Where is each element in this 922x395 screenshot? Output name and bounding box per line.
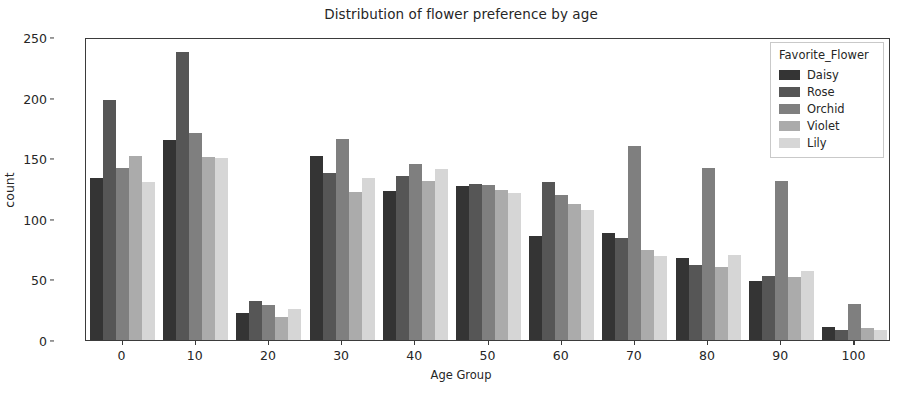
x-tick-mark bbox=[561, 341, 562, 345]
legend-item-label: Lily bbox=[807, 136, 827, 150]
legend-item: Violet bbox=[779, 117, 875, 134]
x-tick-label: 70 bbox=[626, 348, 642, 363]
legend-item: Rose bbox=[779, 83, 875, 100]
legend-item: Lily bbox=[779, 134, 875, 151]
x-tick-mark bbox=[853, 341, 854, 345]
x-tick-label: 30 bbox=[333, 348, 349, 363]
x-tick-label: 80 bbox=[699, 348, 715, 363]
x-tick-label: 40 bbox=[406, 348, 422, 363]
x-tick-label: 100 bbox=[841, 348, 865, 363]
x-tick-mark bbox=[634, 341, 635, 345]
legend-item-label: Violet bbox=[807, 119, 840, 133]
x-tick-label: 10 bbox=[187, 348, 203, 363]
legend-title: Favorite_Flower bbox=[779, 48, 875, 62]
x-axis-label: Age Group bbox=[0, 368, 922, 382]
x-tick-label: 90 bbox=[772, 348, 788, 363]
x-tick-label: 0 bbox=[118, 348, 126, 363]
x-tick-mark bbox=[268, 341, 269, 345]
x-tick-mark bbox=[707, 341, 708, 345]
x-tick-label: 50 bbox=[480, 348, 496, 363]
x-tick-mark bbox=[780, 341, 781, 345]
x-tick-mark bbox=[414, 341, 415, 345]
legend-item: Daisy bbox=[779, 66, 875, 83]
legend-swatch bbox=[779, 87, 800, 97]
x-tick-mark bbox=[341, 341, 342, 345]
bar-chart-figure: Distribution of flower preference by age… bbox=[0, 0, 922, 395]
legend-swatch bbox=[779, 70, 800, 80]
legend-swatch bbox=[779, 138, 800, 148]
legend-item: Orchid bbox=[779, 100, 875, 117]
legend-swatch bbox=[779, 104, 800, 114]
x-tick-label: 20 bbox=[260, 348, 276, 363]
legend-item-label: Rose bbox=[807, 85, 835, 99]
x-tick-mark bbox=[488, 341, 489, 345]
legend: Favorite_Flower DaisyRoseOrchidVioletLil… bbox=[770, 42, 884, 158]
legend-items: DaisyRoseOrchidVioletLily bbox=[779, 66, 875, 151]
x-tick-mark bbox=[122, 341, 123, 345]
legend-item-label: Daisy bbox=[807, 68, 839, 82]
x-tick-label: 60 bbox=[553, 348, 569, 363]
x-tick-mark bbox=[195, 341, 196, 345]
legend-item-label: Orchid bbox=[807, 102, 845, 116]
legend-swatch bbox=[779, 121, 800, 131]
